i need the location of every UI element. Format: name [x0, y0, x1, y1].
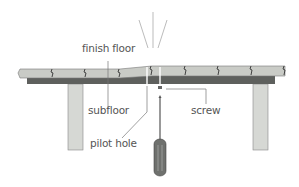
- floor-diagram: [0, 0, 299, 187]
- screwdriver-icon: [154, 95, 166, 176]
- screw-label: screw: [191, 104, 220, 116]
- left-joist: [68, 84, 83, 150]
- screw-icon: [158, 86, 162, 89]
- finish-floor-label: finish floor: [82, 42, 135, 54]
- right-joist: [253, 84, 268, 150]
- subfloor-label: subfloor: [88, 104, 129, 116]
- squeak-lines-icon: [139, 12, 167, 48]
- pilot-hole-label: pilot hole: [90, 137, 137, 149]
- screw-leader: [166, 89, 206, 104]
